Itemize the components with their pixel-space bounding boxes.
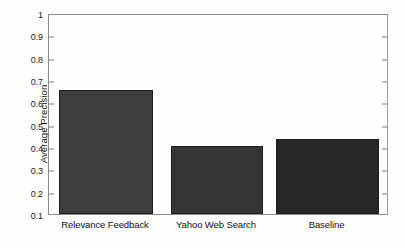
y-tick-label: 0.1 [31,211,43,221]
bar-chart-figure: Average Precision 0.10.20.30.40.50.60.70… [0,0,404,248]
bar-baseline [276,139,379,214]
y-tick-mark-right [382,126,387,127]
bar-yahoo-web-search [171,146,263,214]
x-tick-label: Baseline [275,219,378,230]
y-tick-label: 0.3 [31,166,43,176]
y-tick-label: 1 [38,10,43,20]
plot-area: 0.10.20.30.40.50.60.70.80.91 [48,14,388,215]
y-tick-mark-right [382,37,387,38]
y-tick-mark-right [382,82,387,83]
y-tick-mark-right [382,104,387,105]
bar-relevance-feedback [59,90,153,214]
y-tick-mark [49,126,54,127]
y-tick-mark [49,82,54,83]
y-tick-mark [49,59,54,60]
y-tick-label: 0.7 [31,77,43,87]
x-tick-label: Yahoo Web Search [170,219,262,230]
y-tick-mark [49,37,54,38]
y-tick-label: 0.8 [31,55,43,65]
y-tick-mark [49,149,54,150]
x-tick-label: Relevance Feedback [58,219,152,230]
y-tick-mark [49,193,54,194]
y-tick-label: 0.4 [31,144,43,154]
y-tick-mark-right [382,149,387,150]
y-tick-label: 0.9 [31,32,43,42]
y-tick-mark [49,171,54,172]
y-tick-mark-right [382,193,387,194]
y-tick-mark-right [382,171,387,172]
y-tick-label: 0.2 [31,189,43,199]
y-tick-mark-right [382,59,387,60]
y-tick-label: 0.6 [31,99,43,109]
y-tick-mark [49,104,54,105]
y-tick-label: 0.5 [31,122,43,132]
